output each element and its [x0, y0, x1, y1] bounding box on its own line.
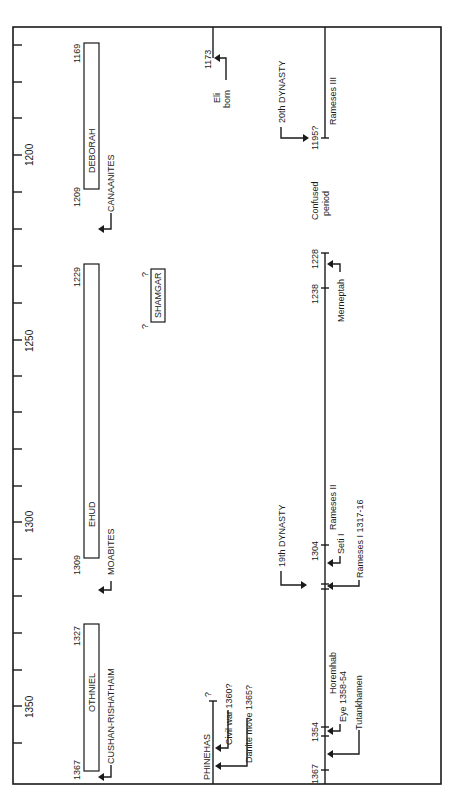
pharaoh-rameses-iii: Rameses III — [328, 77, 338, 125]
judge-othniel: OTHNIEL 1367 1327 CUSHAN-RISHATHAIM — [72, 624, 116, 781]
oppressor-label: CUSHAN-RISHATHAIM — [106, 668, 116, 764]
pharaoh-eye: Eye 1358-54 — [338, 671, 348, 722]
axis-label-1200: 1200 — [24, 143, 35, 166]
egypt-year-1195: 1195? — [310, 126, 320, 150]
judge-start-year: 1209 — [72, 187, 82, 207]
civil-war-label: Civil war 1360? — [224, 683, 234, 745]
judge-end-year: 1327 — [72, 626, 82, 646]
axis-label-1350: 1350 — [24, 695, 35, 718]
pharaoh-tutankhamen: Tutankhamen — [354, 675, 364, 730]
judge-deborah: DEBORAH 1209 1169 CANAANITES — [72, 43, 116, 233]
dynasty-20th: 20th DYNASTY — [277, 60, 287, 123]
phinehas-end-question: ? — [203, 692, 213, 697]
axis-label-1300: 1300 — [24, 510, 35, 533]
egypt-year-1354: 1354 — [310, 722, 320, 742]
oppressor-label: CANAANITES — [106, 154, 116, 212]
judge-name: DEBORAH — [87, 128, 97, 173]
eli-label-born: born — [222, 90, 232, 108]
dynasty-19th: 19th DYNASTY — [277, 504, 287, 567]
pharaoh-seti-i: Seti I — [336, 533, 346, 554]
eli-label: Eli — [212, 93, 222, 103]
judge-name: EHUD — [87, 501, 97, 527]
phinehas-line: ? PHINEHAS Civil war 1360? Danite move 1… — [202, 683, 254, 784]
judge-end-year: 1229 — [72, 267, 82, 287]
pharaoh-rameses-i: Rameses I 1317-16 — [355, 499, 365, 578]
judge-start-year: 1309 — [72, 555, 82, 575]
danite-move-label: Danite move 1365? — [244, 685, 254, 763]
oppressor-label: MOABITES — [106, 528, 116, 575]
egypt-year-1238: 1238 — [310, 284, 320, 304]
confused-period-line1: Confused — [310, 181, 320, 220]
shamgar-end-question: ? — [140, 272, 150, 277]
judge-name: OTHNIEL — [87, 673, 97, 712]
axis-label-1250: 1250 — [24, 329, 35, 352]
judge-start-year: 1367 — [72, 760, 82, 780]
timeline-diagram: 1200 1250 1300 1350 OTHNIEL 1367 1327 CU… — [0, 0, 469, 809]
egypt-year-1367: 1367 — [310, 764, 320, 784]
eli-line: 1173 Eli born — [203, 27, 232, 108]
shamgar-start-question: ? — [140, 324, 150, 329]
judge-ehud: EHUD 1309 1229 MOABITES — [72, 264, 116, 594]
judge-end-year: 1169 — [72, 44, 82, 63]
pharaoh-merneptah: Merneptah — [336, 279, 346, 322]
eli-year: 1173 — [203, 50, 213, 69]
diagram-frame — [13, 27, 441, 784]
egypt-year-1304: 1304 — [310, 541, 320, 561]
phinehas-label: PHINEHAS — [202, 734, 212, 780]
year-axis: 1200 1250 1300 1350 — [13, 45, 35, 743]
pharaoh-rameses-ii: Rameses II — [328, 484, 338, 530]
judge-name: SHAMGAR — [153, 272, 163, 318]
egypt-line: 1367 1354 1304 1238 1228 1195? Tutankham… — [277, 27, 365, 784]
confused-period-line2: period — [321, 191, 331, 216]
egypt-year-1228: 1228 — [310, 249, 320, 269]
judge-shamgar: SHAMGAR ? ? — [140, 269, 165, 329]
pharaoh-horemhab: Horemhab — [328, 652, 338, 694]
